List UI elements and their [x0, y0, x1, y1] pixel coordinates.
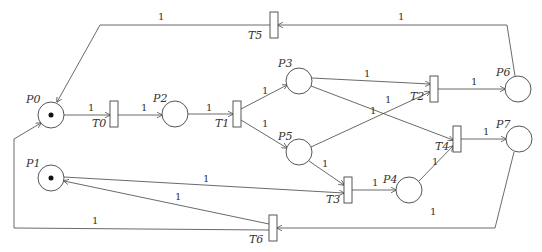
token-icon: [49, 113, 54, 118]
arc-weight-label: 1: [175, 191, 181, 202]
petri-net-diagram: 1111111111111111111 P0P1P2P3P4P5P6P7 T0T…: [0, 0, 542, 252]
petri-net-svg: 1111111111111111111 P0P1P2P3P4P5P6P7 T0T…: [0, 0, 542, 252]
place-label: P6: [495, 66, 510, 79]
arcs-layer: 1111111111111111111: [14, 11, 515, 230]
arc-weight-label: 1: [398, 11, 404, 22]
transition-label: T4: [435, 140, 449, 153]
transition-t1: [233, 101, 241, 127]
place-label: P0: [25, 93, 40, 106]
arc-weight-label: 1: [370, 105, 376, 116]
transition-label: T5: [248, 29, 262, 42]
transitions-layer: T0T1T2T3T4T5T6: [92, 12, 461, 246]
arc-weight-label: 1: [141, 102, 147, 113]
place-label: P4: [382, 173, 397, 186]
transition-t3: [344, 177, 352, 203]
arc-weight-label: 1: [364, 68, 370, 79]
place-label: P7: [495, 118, 510, 131]
arc-weight-label: 1: [262, 85, 268, 96]
transition-t0: [110, 101, 118, 127]
arc-weight-label: 1: [206, 102, 212, 113]
arc-p3-t2: [312, 78, 430, 84]
arc-t5-p0: [57, 25, 270, 102]
arc-weight-label: 1: [158, 11, 164, 22]
place-p6: [505, 76, 531, 102]
place-label: P3: [277, 57, 292, 70]
arc-weight-label: 1: [262, 118, 268, 129]
transition-label: T0: [92, 117, 106, 130]
transition-t5: [270, 12, 278, 38]
arc-weight-label: 1: [471, 76, 477, 87]
arc-weight-label: 1: [432, 156, 438, 167]
place-p3: [286, 68, 312, 94]
transition-t6: [269, 215, 277, 241]
transition-t2: [430, 76, 438, 102]
place-p4: [396, 177, 422, 203]
transition-t4: [453, 126, 461, 152]
arc-weight-label: 1: [203, 173, 209, 184]
token-icon: [49, 176, 54, 181]
arc-weight-label: 1: [385, 94, 391, 105]
arc-weight-label: 1: [322, 158, 328, 169]
arc-weight-label: 1: [92, 215, 98, 226]
transition-label: T2: [410, 90, 424, 103]
place-label: P5: [277, 130, 292, 143]
transition-label: T6: [249, 233, 263, 246]
transition-label: T3: [326, 193, 340, 206]
arc-weight-label: 1: [430, 206, 436, 217]
arc-weight-label: 1: [372, 177, 378, 188]
place-label: P1: [25, 157, 40, 170]
place-label: P2: [152, 92, 167, 105]
arc-weight-label: 1: [483, 126, 489, 137]
arc-p6-t5: [278, 25, 515, 76]
transition-label: T1: [215, 117, 229, 130]
arc-weight-label: 1: [88, 102, 94, 113]
